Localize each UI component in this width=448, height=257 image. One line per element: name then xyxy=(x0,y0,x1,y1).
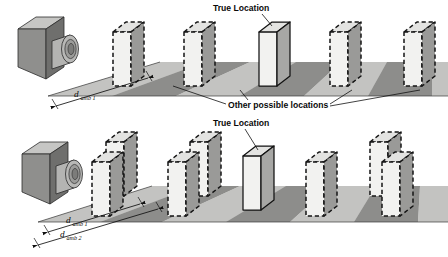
ghost-slab xyxy=(382,152,413,216)
sensor-camera xyxy=(22,142,83,204)
ghost-slab xyxy=(92,152,123,216)
ghost-slab xyxy=(306,152,337,216)
ghost-slab xyxy=(184,22,215,86)
ghost-slab xyxy=(404,22,435,86)
true-location-leader-bottom xyxy=(245,129,258,150)
d-amb-1-top-var: d xyxy=(74,89,79,99)
true-location-leader-top xyxy=(262,14,272,26)
other-locations-label: Other possible locations xyxy=(228,100,329,110)
ghost-slab xyxy=(330,22,361,86)
true-location-label-bottom: True Location xyxy=(213,118,269,128)
true-location-slab xyxy=(243,146,274,210)
true-location-label-top: True Location xyxy=(213,3,269,13)
range-ambiguity-diagram: d amb 1 True Location Other possible loc… xyxy=(0,0,448,257)
d-amb-1-bottom-sub: amb 1 xyxy=(73,221,88,227)
top-ground-plane xyxy=(48,62,448,96)
d-amb-2-bottom-var: d xyxy=(60,229,65,239)
d-amb-1-top-sub: amb 1 xyxy=(81,95,96,101)
ghost-slab xyxy=(168,152,199,216)
ghost-slab xyxy=(113,22,144,86)
diagram-canvas: d amb 1 True Location Other possible loc… xyxy=(0,0,448,257)
bottom-scene: d amb 1 d amb 2 True Location xyxy=(22,118,448,248)
sensor-camera xyxy=(18,17,79,79)
d-amb-2-bottom-sub: amb 2 xyxy=(67,235,82,241)
d-amb-1-bottom-var: d xyxy=(66,215,71,225)
top-scene: d amb 1 True Location Other possible loc… xyxy=(18,3,448,110)
true-location-slab xyxy=(259,22,290,86)
